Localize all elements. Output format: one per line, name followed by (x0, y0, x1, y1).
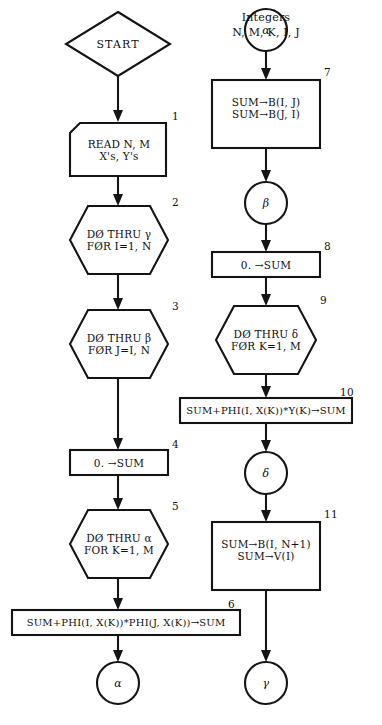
connector-label-delta: δ (263, 468, 270, 481)
node-loop-k-2-number: 9 (320, 294, 327, 306)
node-accum-phi-phi-label: SUM+PHI(I, X(K))*PHI(J, X(K))→SUM (27, 617, 226, 629)
connector-label-alpha-out: α (114, 678, 122, 691)
node-loop-j-number: 3 (172, 300, 179, 312)
connector-label-beta: β (263, 198, 270, 211)
node-loop-j-line1: DØ THRU β (87, 332, 152, 344)
node-store-b-sym-line1: SUM→B(I, J) (232, 96, 301, 108)
arrowhead-loop-i (113, 194, 123, 206)
node-read-line1: READ N, M (88, 138, 151, 150)
arrowhead-store-b-v (261, 510, 271, 522)
flowchart-canvas: IntegersN, M, K, I, J START READ N, MX's… (0, 0, 382, 725)
node-accum-phi-y-number: 10 (340, 386, 354, 398)
node-loop-k-1-line1: DØ THRU α (86, 532, 152, 544)
node-loop-k-2-label: DØ THRU δFØR K=1, M (231, 328, 301, 353)
connector-label-gamma: γ (263, 678, 270, 691)
arrowhead-loop-j (113, 298, 123, 310)
node-loop-i-line1: DØ THRU γ (87, 228, 152, 240)
node-loop-i-label: DØ THRU γFØR I=1, N (87, 228, 152, 253)
arrowhead-zero-sum-2 (261, 240, 271, 252)
node-loop-k-2-line1: DØ THRU δ (234, 328, 299, 340)
node-loop-i-line2: FØR I=1, N (87, 240, 152, 252)
arrowhead-store-b-sym (261, 68, 271, 80)
node-loop-i-number: 2 (172, 196, 179, 208)
node-store-b-sym-line2: SUM→B(J, I) (232, 108, 300, 120)
arrowhead-delta (261, 440, 271, 452)
node-zero-sum-2-label: 0. →SUM (241, 259, 291, 271)
node-loop-j-line2: FØR J=I, N (88, 344, 150, 356)
node-accum-phi-y-label: SUM+PHI(I, X(K))*Y(K)→SUM (186, 405, 346, 417)
node-read-line2: X's, Y's (99, 150, 138, 162)
node-read-label: READ N, MX's, Y's (88, 138, 151, 163)
arrowhead-accum-2 (261, 386, 271, 398)
arrowhead-loop-k-1 (113, 498, 123, 510)
integers-note-line1: Integers (242, 11, 290, 24)
node-loop-k-2-line2: FØR K=1, M (231, 340, 301, 352)
arrowhead-zero-sum-1 (113, 438, 123, 450)
arrowhead-beta (261, 170, 271, 182)
arrowhead-gamma-bottom (261, 650, 271, 662)
arrowhead-read (113, 110, 123, 122)
node-store-b-v-line1: SUM→B(I, N+1) (221, 538, 311, 550)
node-loop-j-label: DØ THRU βFØR J=I, N (87, 332, 152, 357)
node-read-number: 1 (172, 110, 179, 122)
node-zero-sum-2-number: 8 (324, 240, 331, 252)
arrowhead-alpha-bottom (113, 650, 123, 662)
node-loop-k-1-label: DØ THRU αFOR K=1, M (84, 532, 154, 557)
node-store-b-sym-number: 7 (324, 66, 331, 78)
node-store-b-v-line2: SUM→V(I) (237, 550, 294, 562)
node-zero-sum-1-label: 0. →SUM (94, 457, 144, 469)
node-store-b-v-number: 11 (324, 508, 338, 520)
node-store-b-sym-label: SUM→B(I, J)SUM→B(J, I) (232, 96, 301, 121)
node-loop-k-1-number: 5 (172, 500, 179, 512)
arrowhead-accum-1 (113, 598, 123, 610)
node-loop-k-1-line2: FOR K=1, M (84, 544, 154, 556)
node-start-label: START (96, 39, 139, 52)
node-zero-sum-1-number: 4 (172, 438, 179, 450)
node-accum-phi-phi-number: 6 (228, 598, 235, 610)
node-store-b-v-label: SUM→B(I, N+1)SUM→V(I) (221, 538, 311, 563)
arrowhead-loop-k-2 (261, 294, 271, 306)
connector-label-alpha-in: α (262, 25, 270, 38)
